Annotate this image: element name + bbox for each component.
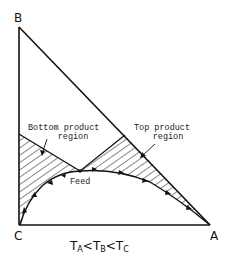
vertex-c-label: C	[14, 230, 22, 242]
feed-label: Feed	[70, 178, 90, 187]
vertex-b-label: B	[14, 12, 22, 24]
temperature-order: TA<TB<TC	[70, 239, 129, 254]
vertex-a-label: A	[210, 230, 218, 242]
feed-point	[78, 169, 82, 173]
temp-c-sub: C	[123, 245, 129, 254]
bottom-region-label: Bottom product region	[28, 124, 98, 142]
bottom-region-label-line2: region	[38, 132, 89, 142]
top-region-label-line2: region	[141, 132, 184, 142]
top-region-label: Top product region	[132, 124, 192, 142]
lt-sign: <	[83, 239, 93, 253]
lt-sign: <	[106, 239, 116, 253]
